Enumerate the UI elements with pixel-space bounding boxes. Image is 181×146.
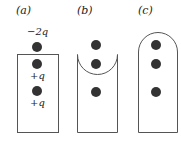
charge-dot (32, 86, 42, 96)
charge-dot (91, 59, 101, 69)
charge-dot (151, 87, 161, 97)
panel-a-label: (a) (16, 4, 31, 17)
charge-dot (91, 87, 101, 97)
charge-dot (151, 59, 161, 69)
charge-diagram: (a) −2q +q +q (b) (c) (0, 0, 181, 146)
panel-a: (a) −2q +q +q (16, 4, 59, 133)
panel-c-label: (c) (138, 4, 153, 17)
charge-label: +q (30, 70, 45, 81)
panel-b: (b) (77, 4, 118, 133)
panel-c: (c) (138, 4, 178, 133)
charge-label: +q (30, 97, 45, 108)
charge-dot (32, 42, 42, 52)
charge-dot (32, 59, 42, 69)
charge-dot (151, 40, 161, 50)
charge-dot (91, 40, 101, 50)
panel-b-label: (b) (77, 4, 93, 17)
charge-label: −2q (27, 26, 48, 37)
